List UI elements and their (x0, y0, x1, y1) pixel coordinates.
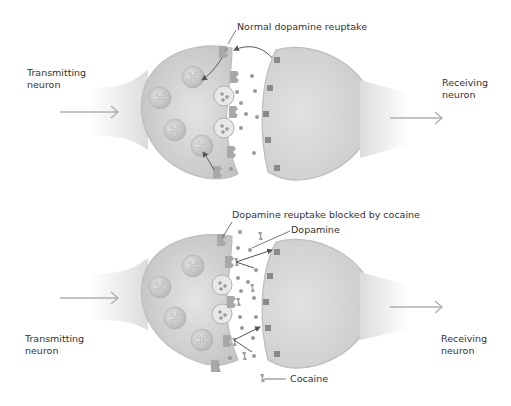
label-line: neuron (442, 89, 488, 101)
title-pointer (228, 30, 236, 44)
label-receiving-neuron-bottom: Receiving neuron (441, 333, 487, 357)
title-reuptake-blocked: Dopamine reuptake blocked by cocaine (232, 209, 420, 221)
label-line: Transmitting (25, 333, 84, 345)
panel-blocked (60, 222, 442, 382)
label-line: neuron (25, 345, 84, 357)
label-line: Receiving (442, 77, 488, 89)
title-normal-reuptake: Normal dopamine reuptake (237, 21, 367, 33)
label-line: Receiving (441, 333, 487, 345)
cocaine-legend-icon (260, 374, 265, 382)
label-cocaine: Cocaine (290, 373, 328, 385)
label-receiving-neuron-top: Receiving neuron (442, 77, 488, 101)
label-line: Transmitting (27, 67, 86, 79)
label-transmitting-neuron-bottom: Transmitting neuron (25, 333, 84, 357)
transmitting-terminal (141, 46, 238, 179)
label-dopamine: Dopamine (291, 224, 340, 236)
dopamine-molecules (228, 230, 258, 360)
label-transmitting-neuron-top: Transmitting neuron (27, 67, 86, 91)
label-line: neuron (441, 345, 487, 357)
receiving-terminal (262, 47, 373, 180)
panel-normal (60, 30, 442, 180)
receiving-terminal (262, 239, 373, 368)
label-line: neuron (27, 79, 86, 91)
